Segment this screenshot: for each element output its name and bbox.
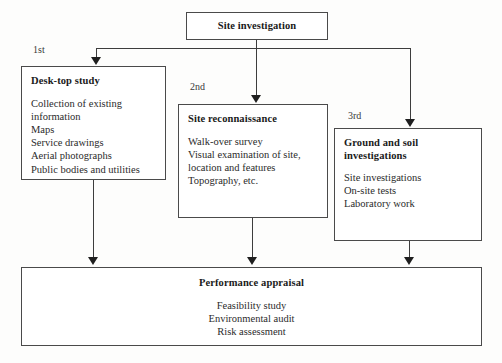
node-ground-and-soil-investigations-items: Site investigations On-site tests Labora… <box>344 171 472 211</box>
connector-desk-top-study-to-outcome <box>93 180 94 259</box>
connector-branch-second <box>256 48 257 97</box>
spacer <box>31 88 156 97</box>
node-ground-and-soil-investigations-title: Ground and soil investigations <box>344 137 472 162</box>
node-performance-appraisal-items: Feasibility study Environmental audit Ri… <box>22 299 481 339</box>
arrowhead-desk-top-study-to-outcome <box>88 257 98 265</box>
ordinal-label-first: 1st <box>33 44 45 55</box>
node-site-reconnaissance-title: Site reconnaissance <box>188 113 318 126</box>
node-performance-appraisal: Performance appraisal Feasibility study … <box>21 267 482 346</box>
arrowhead-to-ground-and-soil <box>405 119 415 127</box>
node-desk-top-study-items: Collection of existing information Maps … <box>31 97 156 176</box>
arrowhead-site-reconnaissance-to-outcome <box>247 257 257 265</box>
flowchart-diagram: 1st 2nd 3rd Site investigation Desk-top … <box>0 0 502 363</box>
arrowhead-to-desk-top-study <box>91 57 101 65</box>
spacer <box>344 162 472 171</box>
node-ground-and-soil-investigations: Ground and soil investigations Site inve… <box>334 128 482 241</box>
arrowhead-to-site-reconnaissance <box>251 95 261 103</box>
ordinal-label-second: 2nd <box>190 81 205 92</box>
ordinal-label-third: 3rd <box>348 110 361 121</box>
spacer <box>188 126 318 135</box>
node-desk-top-study: Desk-top study Collection of existing in… <box>21 66 166 180</box>
arrowhead-ground-and-soil-to-outcome <box>404 257 414 265</box>
node-site-reconnaissance-items: Walk-over survey Visual examination of s… <box>188 135 318 188</box>
node-site-reconnaissance: Site reconnaissance Walk-over survey Vis… <box>178 104 328 218</box>
node-performance-appraisal-title: Performance appraisal <box>22 277 481 290</box>
node-site-investigation: Site investigation <box>186 12 328 40</box>
node-desk-top-study-title: Desk-top study <box>31 75 156 88</box>
node-site-investigation-title: Site investigation <box>218 20 297 33</box>
connector-site-reconnaissance-to-outcome <box>252 218 253 259</box>
connector-branch-third <box>410 48 411 121</box>
connector-horizontal-bus <box>96 48 411 49</box>
